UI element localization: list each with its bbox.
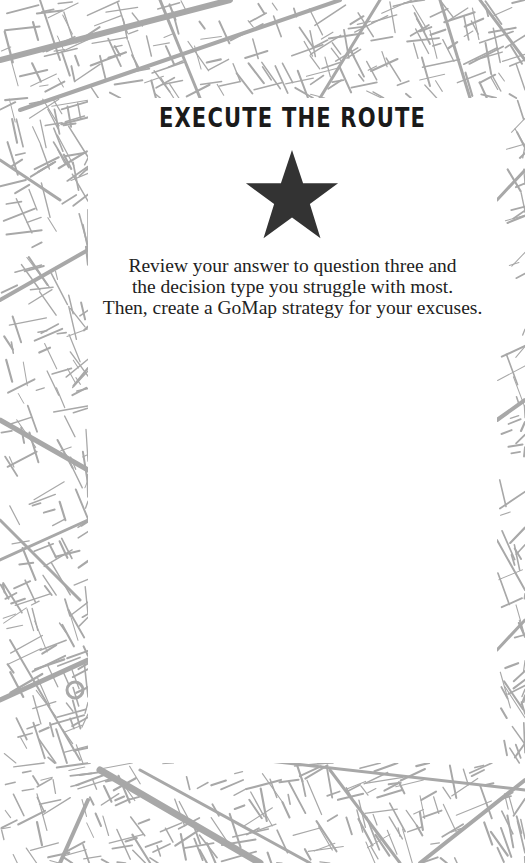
map-street	[76, 489, 88, 519]
map-street	[311, 35, 341, 54]
map-street	[31, 74, 57, 86]
map-street	[0, 180, 26, 186]
map-street	[288, 795, 290, 805]
map-street	[96, 814, 101, 827]
map-street	[8, 648, 41, 664]
map-street	[45, 123, 62, 126]
map-street	[13, 794, 24, 816]
map-street	[4, 754, 16, 764]
map-street	[63, 730, 73, 744]
map-street	[0, 520, 88, 560]
map-street	[6, 782, 16, 784]
map-street	[403, 829, 413, 863]
map-street	[29, 290, 52, 304]
map-street	[74, 579, 88, 585]
map-street	[390, 803, 405, 831]
map-street	[371, 37, 392, 41]
map-street	[106, 7, 138, 12]
map-street	[72, 602, 89, 615]
map-street	[425, 85, 437, 98]
map-street	[7, 5, 39, 13]
map-street	[23, 362, 27, 386]
map-street	[7, 230, 42, 234]
map-street	[332, 43, 340, 54]
map-street	[75, 64, 100, 81]
instruction-line: Review your answer to question three and	[88, 255, 497, 276]
map-street	[33, 22, 38, 40]
map-street	[194, 839, 202, 860]
map-street	[352, 52, 364, 76]
map-street	[397, 81, 409, 85]
map-street	[56, 271, 58, 279]
map-street	[115, 797, 124, 801]
map-street	[22, 789, 34, 791]
map-street	[433, 44, 441, 46]
map-street	[51, 273, 67, 304]
map-street	[103, 816, 109, 835]
map-street	[377, 790, 402, 798]
map-street	[53, 780, 55, 794]
map-street	[0, 520, 80, 600]
map-street	[35, 621, 47, 652]
map-street	[443, 804, 456, 832]
map-street	[78, 532, 88, 538]
map-street	[494, 8, 512, 16]
map-street	[348, 27, 362, 29]
map-street	[20, 70, 47, 76]
map-street	[14, 763, 44, 767]
map-street	[153, 43, 169, 46]
map-street	[30, 287, 53, 290]
map-street	[0, 160, 60, 200]
map-street	[207, 59, 221, 62]
map-street	[382, 0, 412, 13]
map-street	[12, 119, 17, 143]
map-street	[492, 75, 501, 91]
map-street	[83, 845, 89, 863]
map-street	[464, 48, 497, 64]
instruction-line: Then, create a GoMap strategy for your e…	[88, 297, 497, 318]
map-street	[514, 799, 525, 816]
map-street	[67, 329, 88, 337]
map-street	[62, 625, 74, 647]
map-street	[4, 209, 35, 221]
map-street	[493, 28, 500, 62]
map-street	[510, 416, 518, 419]
map-street	[23, 771, 31, 773]
map-street	[486, 43, 492, 74]
instructions: Review your answer to question three and…	[88, 255, 497, 318]
map-street	[283, 63, 293, 82]
map-street	[518, 101, 524, 120]
map-street	[441, 858, 447, 863]
map-street	[33, 696, 41, 724]
content-panel: EXECUTE THE ROUTE Review your answer to …	[88, 98, 497, 763]
map-street	[29, 494, 55, 504]
map-street	[53, 519, 66, 526]
map-street	[302, 780, 306, 797]
map-street	[2, 431, 12, 433]
map-street	[502, 430, 512, 434]
map-street	[511, 452, 520, 454]
star-icon	[245, 148, 339, 242]
map-street	[497, 400, 525, 420]
map-street	[514, 671, 525, 681]
map-street	[521, 422, 525, 431]
map-street	[10, 506, 20, 525]
map-street	[151, 81, 156, 98]
map-street	[8, 452, 37, 467]
map-street	[36, 388, 44, 391]
map-street	[5, 98, 27, 100]
map-street	[507, 144, 525, 149]
map-street	[38, 331, 47, 332]
map-street	[262, 774, 283, 804]
map-street	[129, 30, 138, 33]
map-street	[499, 73, 505, 81]
map-street	[5, 811, 10, 818]
map-street	[250, 13, 267, 22]
map-street	[505, 663, 518, 668]
map-street	[7, 625, 23, 628]
map-street	[237, 73, 253, 93]
map-street	[37, 779, 51, 787]
map-street	[500, 480, 506, 507]
map-street	[25, 580, 35, 602]
map-street	[211, 781, 226, 786]
